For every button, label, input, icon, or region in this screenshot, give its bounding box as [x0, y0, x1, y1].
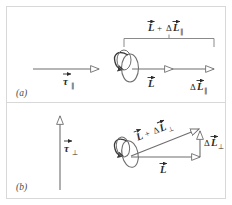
Lb-glyph: L [159, 164, 166, 175]
tau-parallel-subscript: ∥ [71, 82, 75, 90]
deltaL-L-glyph-a: L [196, 81, 203, 92]
label-plus-operator: + [157, 23, 162, 33]
deltaLb-delta-glyph: Δ [204, 138, 210, 148]
label-parallel-subscript: ∥ [180, 28, 184, 36]
figure-canvas: L + Δ L ∥ τ ∥ L Δ L [0, 0, 232, 205]
deltaLb-L-glyph: L [210, 137, 217, 148]
deltaL-parallel-subscript-a: ∥ [204, 87, 208, 95]
physics-figure: L + Δ L ∥ τ ∥ L Δ L [0, 0, 232, 205]
deltaL-delta-glyph-a: Δ [190, 82, 196, 92]
panel-label-a: (a) [16, 88, 27, 99]
label-L-a: L [147, 78, 155, 90]
L-glyph-a: L [147, 78, 154, 89]
label-L-glyph: L [147, 22, 154, 33]
label-delta-glyph: Δ [166, 23, 172, 33]
deltaLb-perp-subscript: ⊥ [218, 143, 224, 150]
label-L-bottom-b: L [159, 164, 167, 176]
label-L2-glyph: L [172, 22, 179, 33]
tau-perpendicular-subscript: ⊥ [72, 149, 78, 156]
disk-body [122, 54, 139, 82]
panel-label-b: (b) [16, 182, 27, 193]
